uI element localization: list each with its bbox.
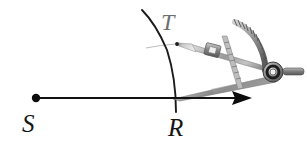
point-s-dot xyxy=(32,94,40,102)
figure-container: S R T xyxy=(0,0,307,149)
compass-instrument xyxy=(173,19,304,101)
compass-pivot-center xyxy=(270,69,276,75)
label-t: T xyxy=(161,9,176,35)
compass-pencil-lead-tip xyxy=(175,42,179,46)
label-s: S xyxy=(22,110,35,137)
geometry-diagram: S R T xyxy=(0,0,307,149)
compass-handle xyxy=(283,68,304,75)
compass-pencil-barrel xyxy=(176,43,196,52)
construction-whisker xyxy=(146,44,176,48)
label-r: R xyxy=(167,114,183,141)
arrowhead-icon xyxy=(232,91,252,105)
